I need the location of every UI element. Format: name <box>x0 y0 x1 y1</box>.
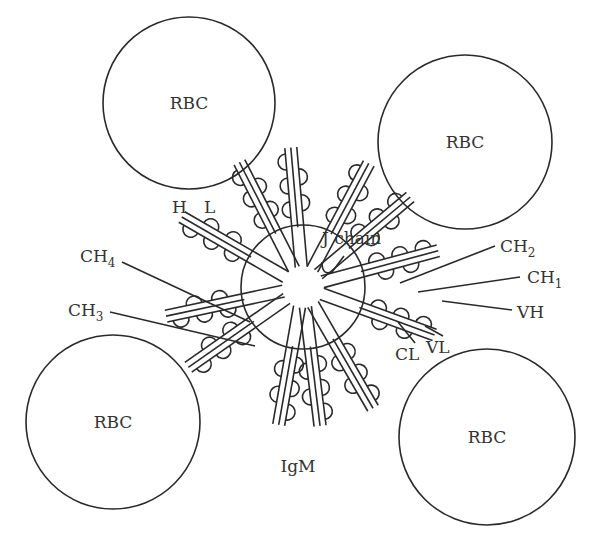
rbc-label: RBC <box>468 427 507 447</box>
igm-agglutination-diagram: RBC RBC RBC RBC <box>0 0 597 543</box>
rbc-bottom-left: RBC <box>26 335 200 509</box>
ch4-label: CH4 <box>80 246 116 270</box>
ch3-label: CH3 <box>68 300 103 324</box>
rbc-top-left: RBC <box>103 17 275 189</box>
j-chain-label: J chain <box>320 228 381 248</box>
rbc-label: RBC <box>94 412 133 432</box>
light-chain-label: L <box>204 197 215 217</box>
rbc-label: RBC <box>446 132 485 152</box>
vl-label: VL <box>425 337 450 357</box>
rbc-label: RBC <box>170 93 209 113</box>
cl-label: CL <box>395 344 419 364</box>
ch1-label: CH1 <box>527 267 562 291</box>
rbc-bottom-right: RBC <box>399 349 575 525</box>
vh-label: VH <box>516 302 544 322</box>
igm-label: IgM <box>280 456 315 476</box>
heavy-chain-label: H <box>172 197 187 217</box>
ch2-label: CH2 <box>500 236 535 260</box>
